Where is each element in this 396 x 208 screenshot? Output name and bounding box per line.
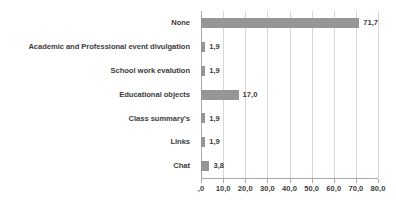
category-axis-labels: None Academic and Professional event div…: [0, 11, 195, 178]
bar-row: 3,8: [201, 154, 378, 178]
category-label-row: Chat: [0, 154, 195, 178]
bar-value-label: 1,9: [209, 43, 220, 51]
category-label: Chat: [173, 162, 190, 170]
x-axis-tick: [312, 179, 313, 183]
x-axis-tick-label: 60,0: [326, 185, 341, 193]
x-axis-tick-label: 10,0: [216, 185, 231, 193]
category-label: Class summary's: [129, 115, 190, 123]
bar-chart: None Academic and Professional event div…: [0, 0, 396, 208]
category-label: Educational objects: [119, 91, 190, 99]
bar-value-label: 3,8: [213, 162, 224, 170]
category-label: Links: [170, 138, 190, 146]
category-label: School work evalution: [110, 67, 190, 75]
bar: [201, 42, 205, 52]
bar-row: 1,9: [201, 35, 378, 59]
bar-row: 71,7: [201, 11, 378, 35]
category-label-row: Educational objects: [0, 83, 195, 107]
bar: [201, 66, 205, 76]
bar-row: 1,9: [201, 59, 378, 83]
x-axis-tick: [223, 179, 224, 183]
x-axis-tick: [267, 179, 268, 183]
x-axis-tick: [334, 179, 335, 183]
category-label: None: [171, 19, 190, 27]
bar-row: 17,0: [201, 83, 378, 107]
category-label-row: Class summary's: [0, 106, 195, 130]
x-axis-tick-label: ,0: [198, 185, 204, 193]
x-axis-ticks: [201, 179, 378, 183]
x-axis-labels: ,010,020,030,040,050,060,070,080,0: [201, 185, 378, 199]
bar: [201, 137, 205, 147]
bar-row: 1,9: [201, 106, 378, 130]
gridline: [378, 11, 379, 178]
bar-row: 1,9: [201, 130, 378, 154]
bar-value-label: 71,7: [363, 19, 378, 27]
bar: [201, 161, 209, 171]
bar-value-label: 1,9: [209, 138, 220, 146]
x-axis-tick: [245, 179, 246, 183]
x-axis-tick: [378, 179, 379, 183]
category-label-row: School work evalution: [0, 59, 195, 83]
bar: [201, 90, 239, 100]
bar-value-label: 1,9: [209, 67, 220, 75]
x-axis-tick-label: 20,0: [238, 185, 253, 193]
x-axis-tick: [356, 179, 357, 183]
category-label-row: Academic and Professional event divulgat…: [0, 35, 195, 59]
x-axis-tick-label: 40,0: [282, 185, 297, 193]
plot-area: 71,7 1,9 1,9 17,0 1,9 1,9: [201, 11, 378, 178]
bar: [201, 18, 359, 28]
x-axis-tick-label: 70,0: [348, 185, 363, 193]
bar-value-label: 1,9: [209, 115, 220, 123]
bar-value-label: 17,0: [243, 91, 258, 99]
bar: [201, 113, 205, 123]
category-label-row: None: [0, 11, 195, 35]
x-axis-tick: [290, 179, 291, 183]
x-axis-tick: [201, 179, 202, 183]
category-label-row: Links: [0, 130, 195, 154]
category-label: Academic and Professional event divulgat…: [28, 43, 190, 51]
x-axis-tick-label: 80,0: [371, 185, 386, 193]
x-axis-tick-label: 50,0: [304, 185, 319, 193]
bar-series: 71,7 1,9 1,9 17,0 1,9 1,9: [201, 11, 378, 178]
x-axis-tick-label: 30,0: [260, 185, 275, 193]
